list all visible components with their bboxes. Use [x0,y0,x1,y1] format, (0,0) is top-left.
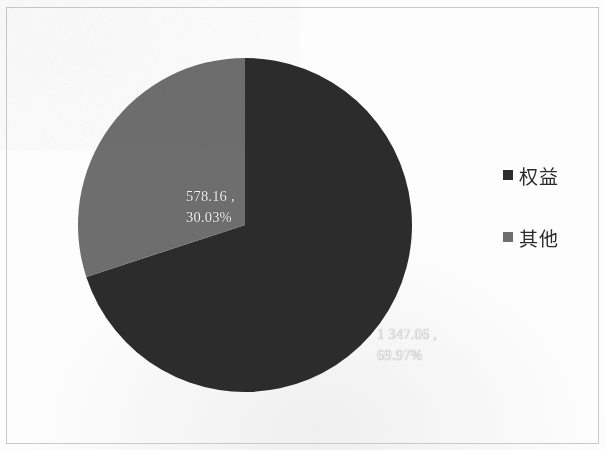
legend-label-other: 其他 [519,224,559,251]
pie-svg [78,58,412,392]
pie-chart-figure: 578.16 , 30.03% 1 347.06 , 69.97% 权益 其他 [0,0,605,450]
pie-chart-plot-area: 578.16 , 30.03% 1 347.06 , 69.97% [78,58,412,392]
legend-label-equity: 权益 [519,162,559,189]
legend-square-marker-icon-other [503,232,513,242]
legend-item-other[interactable]: 其他 [503,222,595,252]
legend-square-marker-icon-equity [503,170,513,180]
chart-legend: 权益 其他 [503,160,595,284]
legend-item-equity[interactable]: 权益 [503,160,595,190]
